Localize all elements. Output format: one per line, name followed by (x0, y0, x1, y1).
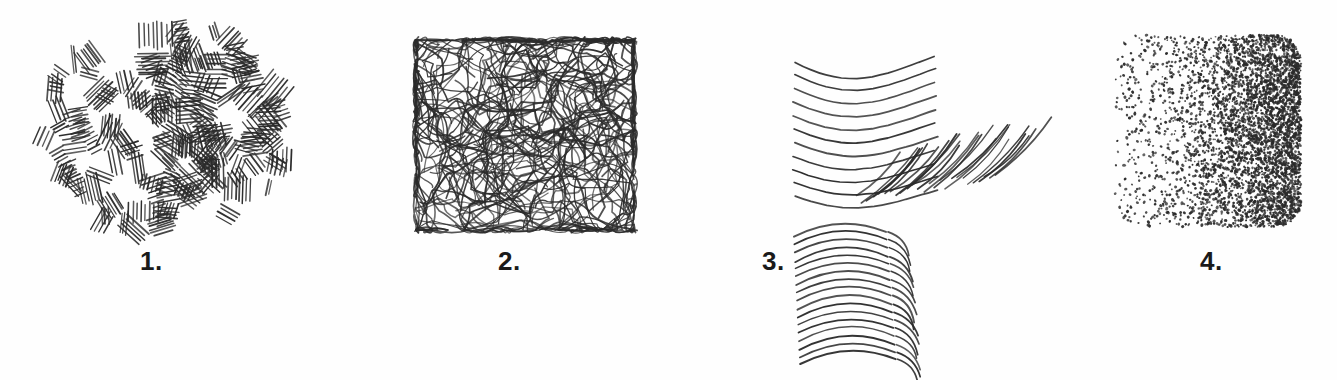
panel-straight-hatching (40, 30, 288, 232)
panel-label-1: 1. (140, 248, 163, 274)
hatching-techniques-figure: 1. 2. 3. 4. (0, 0, 1337, 380)
panel-contour-curved-hatching (790, 50, 990, 380)
panel-label-3: 3. (762, 248, 785, 274)
panel-label-2: 2. (498, 248, 521, 274)
panel-label-4: 4. (1200, 248, 1223, 274)
panel-random-scribble (414, 38, 636, 232)
stipple-canvas (1112, 32, 1304, 230)
